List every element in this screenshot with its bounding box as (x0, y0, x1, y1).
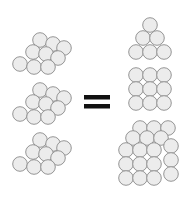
sphere (143, 45, 158, 60)
sphere (143, 82, 158, 97)
sphere (133, 157, 148, 172)
triangle-stack (129, 18, 172, 60)
sphere (27, 110, 42, 125)
oblique-cluster-2 (13, 83, 72, 125)
sphere (133, 143, 148, 158)
sphere (157, 96, 172, 111)
sphere (27, 160, 42, 175)
cubic-stack-front-layer (119, 143, 162, 186)
sphere (119, 171, 134, 186)
sphere (41, 160, 56, 175)
equals-bar-top (84, 95, 110, 100)
left-clusters (13, 33, 72, 175)
sphere (157, 45, 172, 60)
oblique-cluster-1 (13, 33, 72, 75)
sphere (150, 31, 165, 46)
equals-sign (84, 95, 110, 109)
sphere (157, 82, 172, 97)
sphere (143, 18, 158, 33)
square-grid (129, 68, 172, 111)
sphere-packing-diagram (0, 0, 185, 201)
sphere (129, 96, 144, 111)
sphere (164, 139, 179, 154)
sphere (13, 57, 28, 72)
sphere (129, 82, 144, 97)
sphere (27, 60, 42, 75)
sphere (26, 45, 41, 60)
sphere (133, 171, 148, 186)
sphere (129, 68, 144, 83)
sphere (157, 68, 172, 83)
sphere (129, 45, 144, 60)
diagram-canvas (0, 0, 185, 201)
sphere (119, 143, 134, 158)
equals-bar-bottom (84, 104, 110, 109)
sphere (143, 68, 158, 83)
right-shapes (119, 18, 179, 186)
sphere (136, 31, 151, 46)
sphere (164, 153, 179, 168)
sphere (164, 167, 179, 182)
sphere (143, 96, 158, 111)
sphere (26, 95, 41, 110)
sphere (41, 60, 56, 75)
sphere (147, 157, 162, 172)
sphere (13, 107, 28, 122)
sphere (147, 143, 162, 158)
sphere (119, 157, 134, 172)
sphere (147, 171, 162, 186)
sphere (13, 157, 28, 172)
sphere (41, 110, 56, 125)
sphere (26, 145, 41, 160)
oblique-cluster-3 (13, 133, 72, 175)
cubic-stack (119, 121, 179, 186)
